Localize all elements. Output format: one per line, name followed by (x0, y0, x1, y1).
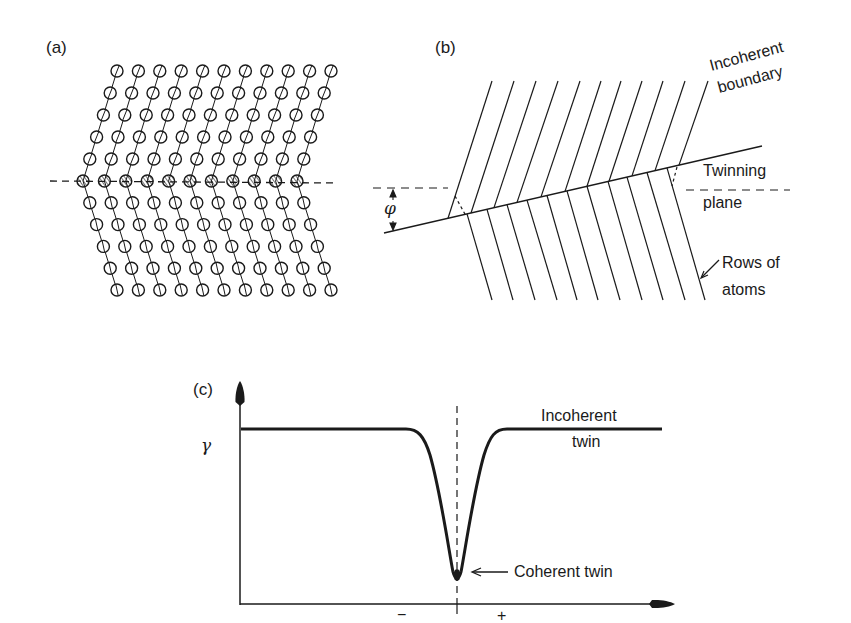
x-axis-arrowhead (649, 600, 675, 608)
upper-atom-rows (448, 81, 708, 218)
boundary-atom (248, 175, 260, 187)
lower-atom-row-line (627, 177, 663, 300)
lower-atom-row-line (587, 186, 620, 300)
lower-atom-row-line (647, 172, 685, 300)
x-axis-plus-label: + (497, 608, 506, 623)
boundary-atom (163, 175, 175, 187)
upper-atom-row-line (609, 81, 642, 181)
y-axis-arrowhead (235, 381, 244, 406)
curve-minimum-marker (454, 569, 461, 581)
upper-atom-row-line (565, 81, 601, 191)
upper-atom-row-line (517, 81, 558, 202)
boundary-atom (141, 175, 153, 187)
mirror-dotted-line-right (672, 167, 677, 186)
lower-atom-row-line (608, 181, 642, 300)
upper-atom-row-line (494, 81, 536, 208)
boundary-atom (291, 175, 303, 187)
coherent-twin-label: Coherent twin (514, 564, 613, 580)
upper-atom-row-line (679, 81, 708, 165)
lower-atom-rows (467, 168, 705, 300)
boundary-atom (98, 175, 110, 187)
panel-c-label: (c) (193, 381, 213, 398)
twinning-plane-label-line2: plane (703, 195, 742, 211)
upper-atom-row-line (471, 81, 514, 213)
boundary-atom (270, 175, 282, 187)
twinning-plane-label-line1: Twinning (703, 163, 766, 179)
phi-angle-label: φ (384, 200, 396, 217)
mirror-dotted-line-left (455, 196, 466, 216)
x-axis-minus-label: − (397, 607, 406, 623)
panel-a-label: (a) (46, 39, 67, 56)
panel-b-label: (b) (435, 39, 456, 56)
upper-atom-row-line (587, 81, 621, 186)
lower-atom-row-line (507, 205, 535, 300)
lower-atom-row-line (667, 168, 705, 300)
coherent-twin-arrow (472, 568, 508, 576)
rows-of-atoms-arrow (701, 260, 719, 278)
upper-atom-row-line (655, 81, 685, 171)
boundary-atom (120, 175, 132, 187)
atoms (77, 65, 337, 296)
incoherent-twin-label-line1: Incoherent (541, 408, 617, 424)
boundary-energy-curve (241, 429, 662, 578)
gamma-axis-label: γ (201, 437, 211, 454)
upper-atom-row-line (541, 81, 580, 197)
lower-atom-row-line (467, 214, 492, 300)
rows-of-atoms-label-line2: atoms (722, 282, 766, 298)
incoherent-twin-label-line2: twin (572, 434, 600, 450)
lower-atom-row-line (487, 209, 513, 300)
boundary-atom (184, 175, 196, 187)
upper-atom-row-line (448, 81, 492, 218)
panel-a-atom-lattice (50, 65, 338, 296)
rows-of-atoms-label-line1: Rows of (722, 255, 780, 271)
boundary-atom (77, 175, 89, 187)
boundary-atom (227, 175, 239, 187)
boundary-atom (205, 175, 217, 187)
